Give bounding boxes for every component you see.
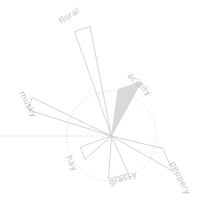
- petal-musky: [29, 98, 112, 137]
- rose-chart: floral acidity peppery grassy hay musky: [0, 0, 198, 210]
- rose-chart-canvas: floral acidity peppery grassy hay musky: [0, 0, 198, 210]
- petal-peppery: [112, 136, 173, 171]
- petal-floral: [75, 27, 112, 137]
- petal-acidity: [112, 82, 142, 137]
- axis-label-musky: musky: [17, 89, 39, 119]
- axis-label-grassy: grassy: [108, 169, 138, 187]
- axis-label-peppery: peppery: [168, 159, 193, 196]
- petal-hay: [81, 136, 112, 160]
- axis-label-hay: hay: [64, 154, 80, 173]
- axis-label-floral: floral: [57, 5, 81, 25]
